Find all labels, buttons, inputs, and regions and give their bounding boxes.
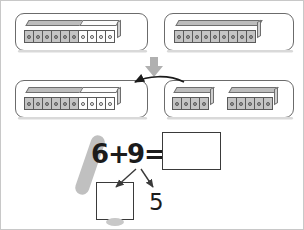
train-top-face <box>175 20 262 26</box>
train-top-face <box>79 20 119 26</box>
train-end-cap <box>117 87 121 105</box>
train-top-face <box>228 87 278 93</box>
ten-frame-train <box>24 25 114 43</box>
train-end-cap <box>257 20 261 38</box>
sum-answer-box[interactable] <box>162 132 221 170</box>
ten-frame-train-after <box>24 92 114 110</box>
worksheet-canvas: 6 + 9 = 5 <box>0 0 304 230</box>
step-two-right-panel <box>164 80 294 118</box>
snap-cube-filled <box>246 30 256 43</box>
nine-train <box>174 25 255 43</box>
split-train-group-one <box>172 92 208 110</box>
train-top-face <box>25 87 84 93</box>
branch-arrow-right-icon <box>141 169 153 187</box>
snap-cube-empty <box>105 30 115 43</box>
snap-cube-empty <box>105 97 115 110</box>
part-two-value: 5 <box>149 191 164 214</box>
train-top-face <box>173 87 214 93</box>
part-one-answer-box[interactable] <box>96 182 134 220</box>
equation-addend-two: 9 <box>127 141 145 167</box>
train-end-cap <box>274 87 278 105</box>
snap-cube-filled <box>263 97 273 110</box>
step-one-right-panel <box>164 13 294 51</box>
train-top-face <box>79 87 119 93</box>
train-top-face <box>25 20 84 26</box>
step-two-left-panel <box>15 80 148 118</box>
snap-cube-filled <box>199 97 209 110</box>
split-train-group-two <box>227 92 272 110</box>
step-one-left-panel <box>15 13 148 51</box>
equation-addend-one: 6 <box>91 141 109 167</box>
train-end-cap <box>210 87 214 105</box>
arrow-head <box>145 66 163 77</box>
train-end-cap <box>117 20 121 38</box>
